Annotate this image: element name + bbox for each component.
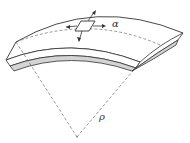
rho-label: ρ [99,112,105,122]
bent-plate-diagram [0,0,190,143]
center-of-curvature [76,136,77,137]
alpha-label: α [112,19,119,29]
radius-line-right [77,66,137,137]
